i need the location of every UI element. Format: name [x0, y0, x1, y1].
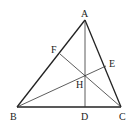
- vertex-labels: ABCDEFH: [10, 8, 126, 122]
- segments: [17, 20, 121, 107]
- segment-CA: [85, 20, 121, 107]
- label-B: B: [10, 111, 17, 122]
- label-E: E: [109, 58, 115, 69]
- triangle-diagram: ABCDEFH: [0, 0, 137, 130]
- segment-BE: [17, 66, 106, 107]
- label-D: D: [81, 111, 88, 122]
- label-A: A: [81, 8, 89, 19]
- label-H: H: [76, 79, 83, 90]
- label-C: C: [119, 111, 126, 122]
- label-F: F: [51, 44, 57, 55]
- segment-AB: [17, 20, 85, 107]
